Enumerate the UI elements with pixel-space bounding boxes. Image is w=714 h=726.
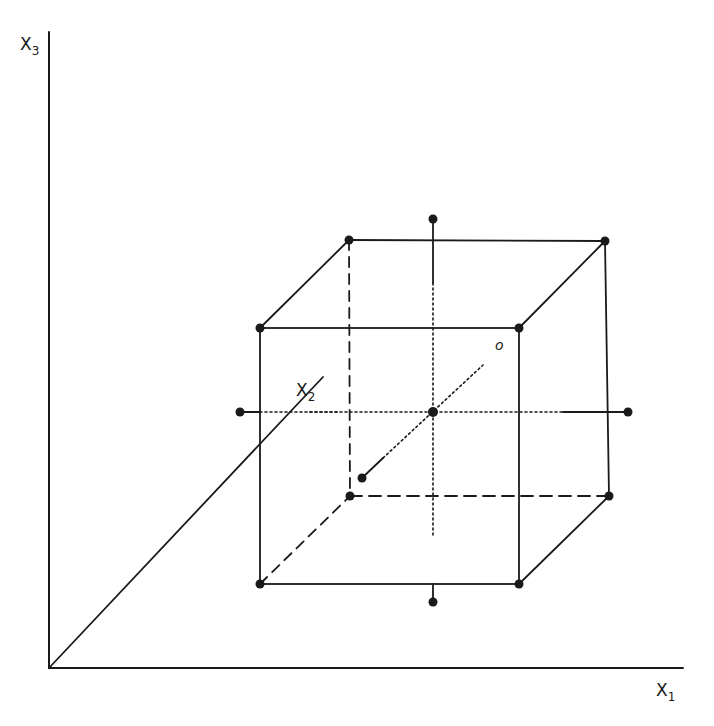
axial-point-bottom (429, 598, 438, 607)
cube-vertex (515, 580, 524, 589)
x2-axis-label: X2 (296, 380, 315, 404)
cube-vertex (346, 492, 355, 501)
cube-vertex (605, 492, 614, 501)
cube-back-top-edge (349, 240, 605, 241)
center-point (428, 407, 438, 417)
cube-vertex (345, 236, 354, 245)
cube-vertex (601, 237, 610, 246)
cube-edge-bottom-right (519, 496, 609, 584)
cube-edge-top-left (260, 240, 349, 328)
cube-edge-top-right (519, 241, 605, 328)
cube-edge-bottom-left-hidden (260, 496, 350, 584)
cube-vertex (256, 324, 265, 333)
cube-back-right-edge (605, 241, 609, 496)
center-label: o (495, 337, 504, 353)
cube-vertex (515, 324, 524, 333)
cube-vertex (256, 580, 265, 589)
axial-point-top (429, 215, 438, 224)
central-composite-design-diagram: X3 X2 X1 o (0, 0, 714, 726)
cube-back-left-edge-hidden (349, 240, 350, 496)
axial-point-near (358, 474, 367, 483)
x1-axis-label: X1 (656, 680, 675, 704)
x3-axis-label: X3 (20, 34, 39, 58)
axial-point-right (624, 408, 633, 417)
axial-point-left (236, 408, 245, 417)
x2-axis (49, 377, 323, 668)
